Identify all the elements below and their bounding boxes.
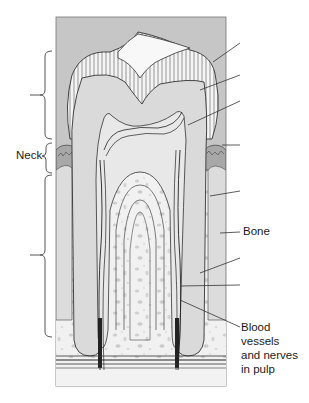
- root-brace: [40, 175, 52, 337]
- neck-brace: [42, 143, 52, 173]
- blood-vessels-label-2: vessels: [241, 335, 279, 349]
- tooth-diagram: Neck Bone Blood vessels and nerves in pu…: [0, 0, 309, 403]
- braces: [30, 51, 52, 337]
- blood-vessels-label-4: in pulp: [241, 363, 275, 377]
- crown-brace: [40, 51, 52, 139]
- bone-label: Bone: [243, 225, 270, 239]
- neck-label: Neck: [16, 149, 42, 163]
- blood-vessels-label-3: and nerves: [241, 349, 298, 363]
- blood-vessels-label-1: Blood: [241, 321, 270, 335]
